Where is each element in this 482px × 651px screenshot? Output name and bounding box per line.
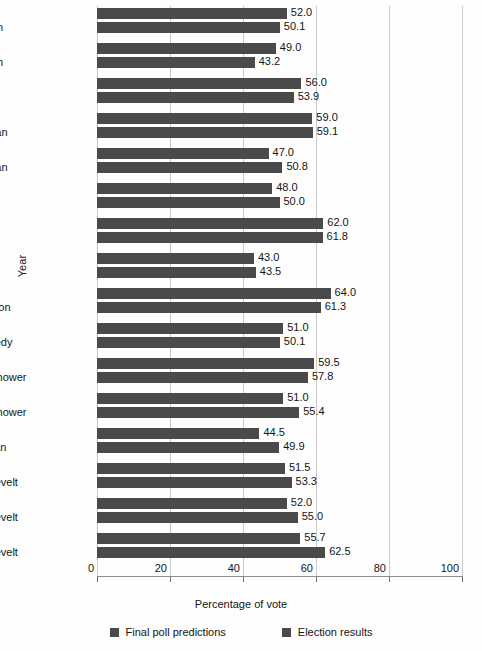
- legend-item: Election results: [282, 626, 373, 638]
- x-tick-mark-100: [462, 577, 463, 582]
- x-tick-mark-20: [170, 577, 171, 582]
- x-axis-ticks: 020406080100: [0, 0, 482, 651]
- legend-item: Final poll predictions: [110, 626, 226, 638]
- x-tick-label-0: 0: [88, 562, 97, 574]
- legend-swatch-icon: [282, 628, 291, 637]
- x-tick-label-20: 20: [155, 562, 170, 574]
- legend-label: Election results: [298, 626, 373, 638]
- x-axis-title: Percentage of vote: [0, 598, 482, 610]
- legend-label: Final poll predictions: [126, 626, 226, 638]
- bar-chart: Year 1996Clinton52.050.11992Clinton49.04…: [0, 0, 482, 651]
- chart-legend: Final poll predictionsElection results: [0, 626, 482, 638]
- x-tick-label-60: 60: [301, 562, 316, 574]
- x-tick-mark-40: [243, 577, 244, 582]
- x-tick-label-100: 100: [441, 562, 462, 574]
- x-tick-label-40: 40: [228, 562, 243, 574]
- x-tick-mark-80: [389, 577, 390, 582]
- x-tick-mark-0: [97, 577, 98, 582]
- x-tick-mark-60: [316, 577, 317, 582]
- legend-swatch-icon: [110, 628, 119, 637]
- x-tick-label-80: 80: [374, 562, 389, 574]
